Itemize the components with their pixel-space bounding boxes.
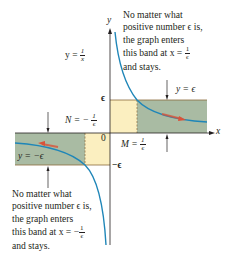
annotation-top-frac-den: ϵ (185, 54, 191, 61)
y-axis-label: y (107, 15, 111, 25)
annotation-bottom: No matter what positive number ϵ is, the… (12, 188, 92, 252)
annotation-top: No matter what positive number ϵ is, the… (123, 9, 203, 73)
M-den: ϵ (140, 145, 146, 152)
x-axis-arrow-icon (209, 131, 215, 135)
N-den: ϵ (91, 121, 97, 128)
M-pointer-head-icon (166, 134, 169, 139)
lower-yellow-band (85, 133, 110, 165)
annotation-top-text: this band at x = (123, 47, 182, 58)
M-label: M = 1ϵ (121, 137, 146, 152)
y-axis-arrow-icon (108, 28, 112, 34)
function-label-lhs: y = (65, 50, 77, 60)
upper-yellow-band (110, 100, 137, 133)
annotation-top-line: the graph enters (123, 34, 203, 46)
annotation-bottom-frac-den: ϵ (79, 233, 85, 240)
annotation-top-line: positive number ϵ is, (123, 21, 203, 33)
annotation-bottom-line: this band at x = −1ϵ (12, 225, 92, 240)
x-axis-label: x (216, 126, 220, 136)
upper-band-label: y = ϵ (176, 84, 195, 94)
upper-band-pointer-head-icon (166, 95, 169, 100)
M-label-lhs: M = (121, 139, 138, 149)
annotation-bottom-line: and stays. (12, 240, 92, 252)
annotation-bottom-line: No matter what (12, 188, 92, 200)
N-label: N = − 1ϵ (65, 113, 97, 128)
function-label-den: x (80, 56, 86, 63)
annotation-top-line: this band at x = 1ϵ (123, 46, 203, 61)
function-label: y = 1x (65, 48, 85, 63)
lower-band-label: y = −ϵ (18, 151, 44, 161)
annotation-bottom-line: positive number ϵ is, (12, 200, 92, 212)
annotation-top-line: and stays. (123, 61, 203, 73)
origin-label: 0 (101, 133, 106, 143)
annotation-bottom-text: this band at x = − (12, 226, 79, 237)
N-pointer-head-icon (47, 128, 50, 133)
neg-epsilon-tick-label: −ϵ (112, 160, 121, 170)
lower-band-pointer-head-icon (47, 166, 50, 171)
N-label-lhs: N = − (65, 115, 89, 125)
annotation-top-line: No matter what (123, 9, 203, 21)
epsilon-tick-label: ϵ (101, 93, 105, 103)
